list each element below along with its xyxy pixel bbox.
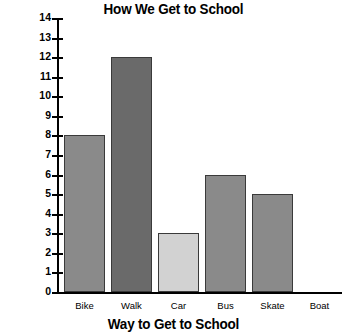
y-axis-tick-label: 1 xyxy=(45,265,51,277)
bar-slot xyxy=(155,18,202,292)
y-axis-tick-label: 11 xyxy=(40,70,51,82)
bar-slot xyxy=(296,18,343,292)
y-axis-tick-mark xyxy=(52,292,63,294)
y-axis-tick-label: 8 xyxy=(45,128,51,140)
bar-slot xyxy=(249,18,296,292)
chart-title: How We Get to School xyxy=(12,1,335,17)
x-axis-category-label: Skate xyxy=(249,300,296,311)
x-axis-title: Way to Get to School xyxy=(12,316,335,332)
y-axis-tick-label: 7 xyxy=(45,148,51,160)
y-axis-tick-label: 12 xyxy=(39,50,51,62)
y-axis-tick-label: 14 xyxy=(39,11,51,23)
bar-slot xyxy=(61,18,108,292)
y-axis-tick-label: 0 xyxy=(45,285,51,297)
y-axis-tick-label: 5 xyxy=(45,187,51,199)
bar[interactable] xyxy=(252,194,293,292)
y-axis-tick-label: 4 xyxy=(45,207,51,219)
bar[interactable] xyxy=(111,57,152,292)
x-axis-line xyxy=(57,292,342,294)
bar[interactable] xyxy=(205,175,246,292)
y-axis-tick-label: 9 xyxy=(45,109,51,121)
y-axis-tick-label: 2 xyxy=(45,246,51,258)
y-axis-tick-label: 6 xyxy=(45,168,51,180)
bar-series xyxy=(59,18,342,292)
y-axis-tick-label: 10 xyxy=(39,89,51,101)
plot-area: 14131211109876543210 BikeWalkCarBusSkate… xyxy=(57,18,342,294)
bar[interactable] xyxy=(64,135,105,292)
bar-slot xyxy=(108,18,155,292)
bar-slot xyxy=(202,18,249,292)
x-axis-category-label: Bike xyxy=(61,300,108,311)
x-axis-category-label: Boat xyxy=(296,300,343,311)
x-axis-category-label: Bus xyxy=(202,300,249,311)
y-axis-tick-label: 3 xyxy=(45,226,51,238)
bar[interactable] xyxy=(158,233,199,292)
y-axis-tick-label: 13 xyxy=(39,31,51,43)
x-axis-category-label: Car xyxy=(155,300,202,311)
x-axis-category-label: Walk xyxy=(108,300,155,311)
